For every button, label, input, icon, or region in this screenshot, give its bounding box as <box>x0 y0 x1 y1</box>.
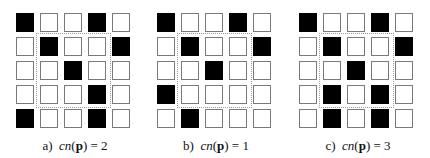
white-pixel <box>64 13 82 32</box>
white-pixel <box>395 13 413 32</box>
neighborhood-box <box>177 33 252 108</box>
caption-arg: p <box>76 138 83 153</box>
white-pixel <box>112 85 130 104</box>
caption-label: b) <box>183 138 194 153</box>
white-pixel <box>157 37 175 56</box>
caption-a: a) cn(p) = 2 <box>10 138 140 154</box>
white-pixel <box>112 13 130 32</box>
black-pixel <box>112 37 130 56</box>
figure-b: b) cn(p) = 1 <box>157 0 287 158</box>
neighborhood-box <box>36 33 111 108</box>
white-pixel <box>40 109 58 128</box>
black-pixel <box>323 109 341 128</box>
white-pixel <box>299 37 317 56</box>
black-pixel <box>229 13 247 32</box>
black-pixel <box>88 109 106 128</box>
white-pixel <box>347 109 365 128</box>
white-pixel <box>347 13 365 32</box>
white-pixel <box>299 109 317 128</box>
black-pixel <box>157 13 175 32</box>
white-pixel <box>16 85 34 104</box>
figure-a: a) cn(p) = 2 <box>16 0 146 158</box>
white-pixel <box>253 13 271 32</box>
neighborhood-box <box>319 33 394 108</box>
white-pixel <box>112 109 130 128</box>
black-pixel <box>16 109 34 128</box>
caption-c: c) cn(p) = 3 <box>293 138 423 154</box>
white-pixel <box>323 13 341 32</box>
white-pixel <box>64 109 82 128</box>
caption-func: cn <box>59 138 71 153</box>
black-pixel <box>88 13 106 32</box>
white-pixel <box>157 109 175 128</box>
pixel-grid-c <box>299 13 419 133</box>
black-pixel <box>253 37 271 56</box>
caption-b: b) cn(p) = 1 <box>151 138 281 154</box>
white-pixel <box>253 85 271 104</box>
caption-value: = 1 <box>232 138 249 153</box>
white-pixel <box>229 109 247 128</box>
white-pixel <box>299 85 317 104</box>
caption-func: cn <box>200 138 212 153</box>
caption-value: = 3 <box>373 138 390 153</box>
black-pixel <box>395 37 413 56</box>
caption-value: = 2 <box>90 138 107 153</box>
white-pixel <box>253 61 271 80</box>
white-pixel <box>205 13 223 32</box>
caption-arg: p <box>359 138 366 153</box>
white-pixel <box>395 109 413 128</box>
black-pixel <box>16 13 34 32</box>
white-pixel <box>395 85 413 104</box>
white-pixel <box>181 13 199 32</box>
figure-c: c) cn(p) = 3 <box>299 0 429 158</box>
white-pixel <box>16 61 34 80</box>
white-pixel <box>157 61 175 80</box>
black-pixel <box>299 13 317 32</box>
pixel-grid-a <box>16 13 136 133</box>
white-pixel <box>40 13 58 32</box>
white-pixel <box>395 61 413 80</box>
caption-func: cn <box>342 138 354 153</box>
white-pixel <box>253 109 271 128</box>
black-pixel <box>371 109 389 128</box>
caption-label: c) <box>325 138 335 153</box>
pixel-grid-b <box>157 13 277 133</box>
caption-label: a) <box>42 138 52 153</box>
white-pixel <box>16 37 34 56</box>
caption-arg: p <box>217 138 224 153</box>
white-pixel <box>112 61 130 80</box>
black-pixel <box>181 109 199 128</box>
black-pixel <box>371 13 389 32</box>
black-pixel <box>157 85 175 104</box>
white-pixel <box>205 109 223 128</box>
white-pixel <box>299 61 317 80</box>
